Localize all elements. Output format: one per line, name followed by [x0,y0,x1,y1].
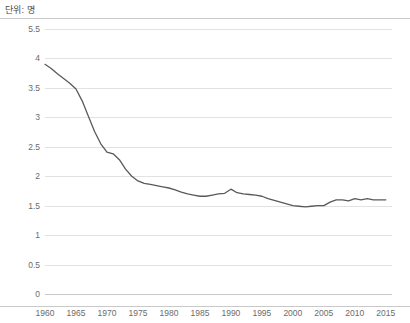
y-tick-label-4: 4 [0,53,40,63]
fertility-rate-line-chart: 단위: 명 5.543.532.521.510.50 1960196519701… [0,0,410,323]
plot-area: 5.543.532.521.510.50 [45,29,392,295]
y-tick-label-3-5: 3.5 [0,83,40,93]
x-tick-label-1995: 1995 [252,308,271,318]
x-tick-label-1970: 1970 [97,308,116,318]
y-tick-label-2-5: 2.5 [0,142,40,152]
x-tick-label-1980: 1980 [159,308,178,318]
series-line-group [45,29,392,295]
y-tick-label-0: 0 [0,289,40,299]
y-tick-label-3: 3 [0,112,40,122]
x-tick-label-2000: 2000 [283,308,302,318]
y-tick-label-5-5: 5.5 [0,24,40,34]
y-tick-label-2: 2 [0,171,40,181]
unit-label: 단위: 명 [5,3,35,16]
y-tick-label-1-5: 1.5 [0,201,40,211]
x-tick-label-1965: 1965 [67,308,86,318]
x-tick-label-1960: 1960 [36,308,55,318]
y-tick-label-1: 1 [0,230,40,240]
x-tick-label-1990: 1990 [221,308,240,318]
top-divider [0,18,410,19]
x-tick-label-2015: 2015 [376,308,395,318]
x-tick-label-1985: 1985 [190,308,209,318]
x-tick-label-1975: 1975 [128,308,147,318]
series-line-fertility [45,64,386,207]
x-tick-label-2005: 2005 [314,308,333,318]
y-tick-label-0-5: 0.5 [0,260,40,270]
x-axis-tick-labels: 1960196519701975198019851990199520002005… [45,306,392,323]
x-tick-label-2010: 2010 [345,308,364,318]
